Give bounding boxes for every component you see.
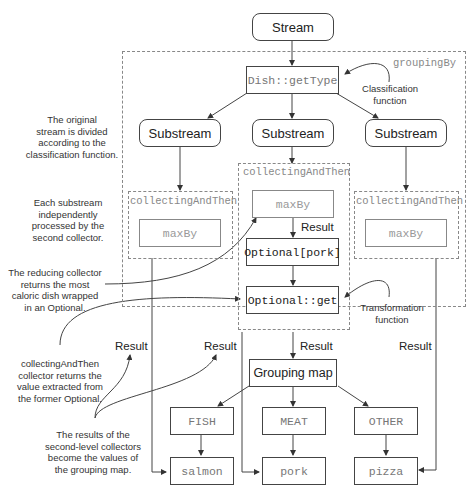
classifier-node: Dish::getType — [246, 66, 339, 94]
optional-get-node: Optional::get — [246, 286, 339, 314]
grouping-diagram: groupingBy Stream Dish::getType Classifi… — [0, 0, 476, 498]
collector-middle-label: collectingAndThen — [243, 166, 350, 178]
key-fish: FISH — [170, 407, 234, 435]
transformation-function-label: Transformation function — [355, 302, 429, 325]
maxby-right: maxBy — [365, 219, 447, 247]
value-pizza: pizza — [354, 457, 418, 485]
grouping-by-label: groupingBy — [393, 58, 463, 70]
grouping-map-node: Grouping map — [249, 359, 337, 387]
annotation-original-stream: The original stream is divided according… — [22, 114, 122, 160]
substream-middle: Substream — [252, 119, 334, 147]
stream-node: Stream — [252, 13, 334, 41]
optional-pork-node: Optional[pork] — [246, 238, 339, 266]
collector-left-label: collectingAndThen — [130, 195, 237, 207]
key-other: OTHER — [354, 407, 418, 435]
maxby-middle: maxBy — [252, 190, 334, 218]
substream-right: Substream — [365, 119, 447, 147]
result-label-3: Result — [300, 340, 333, 352]
result-label-4: Result — [399, 340, 432, 352]
annotation-reducing-collector: The reducing collector returns the most … — [6, 267, 104, 313]
annotation-collecting-and-then: collectingAndThen collector returns the … — [10, 358, 110, 404]
result-label-2: Result — [204, 340, 237, 352]
collector-right-label: collectingAndThen — [356, 195, 463, 207]
maxby-left: maxBy — [139, 219, 221, 247]
key-meat: MEAT — [262, 407, 326, 435]
value-pork: pork — [262, 457, 326, 485]
annotation-each-substream: Each substream independently processed b… — [28, 197, 108, 243]
result-label-1: Result — [115, 340, 148, 352]
classification-function-label: Classification function — [358, 83, 422, 106]
value-salmon: salmon — [170, 457, 234, 485]
result-label-inner: Result — [301, 221, 334, 233]
annotation-second-level-results: The results of the second-level collecto… — [43, 429, 143, 475]
substream-left: Substream — [139, 119, 221, 147]
